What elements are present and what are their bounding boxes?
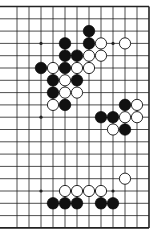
white-stone (59, 75, 70, 86)
black-stone (47, 75, 59, 87)
star-point (39, 116, 42, 119)
white-stone (119, 173, 130, 184)
star-point (111, 189, 114, 192)
white-stone (95, 38, 106, 49)
black-stone (59, 198, 71, 210)
white-stone (71, 185, 82, 196)
black-stone (71, 75, 83, 87)
black-stone (59, 99, 71, 111)
white-stone (47, 99, 58, 110)
black-stone (95, 198, 107, 210)
white-stone (83, 185, 94, 196)
black-stone (47, 87, 59, 99)
go-board (0, 0, 157, 233)
white-stone (95, 185, 106, 196)
white-stone (131, 99, 142, 110)
star-point (39, 189, 42, 192)
white-stone (107, 124, 118, 135)
star-point (39, 42, 42, 45)
black-stone (59, 38, 71, 50)
black-stone (83, 25, 95, 37)
white-stone (83, 62, 94, 73)
star-point (111, 42, 114, 45)
black-stone (35, 62, 47, 74)
white-stone (131, 112, 142, 123)
black-stone (107, 198, 119, 210)
white-stone (119, 38, 130, 49)
black-stone (83, 38, 95, 50)
white-stone (83, 50, 94, 61)
white-stone (59, 185, 70, 196)
white-stone (47, 62, 58, 73)
white-stone (59, 87, 70, 98)
white-stone (71, 62, 82, 73)
black-stone (95, 111, 107, 123)
black-stone (59, 62, 71, 74)
white-stone (71, 87, 82, 98)
black-stone (59, 50, 71, 62)
black-stone (107, 111, 119, 123)
black-stone (119, 124, 131, 136)
white-stone (95, 50, 106, 61)
black-stone (71, 198, 83, 210)
black-stone (47, 198, 59, 210)
black-stone (119, 99, 131, 111)
white-stone (119, 112, 130, 123)
black-stone (71, 50, 83, 62)
